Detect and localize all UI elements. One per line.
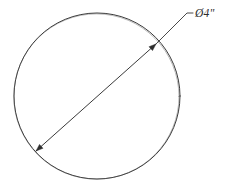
dimension-leader-line [156, 13, 193, 44]
technical-drawing: Ø4" [0, 0, 225, 189]
diameter-dimension-label: Ø4" [194, 7, 214, 19]
diameter-line [36, 44, 156, 151]
drawing-canvas: Ø4" [0, 0, 225, 189]
